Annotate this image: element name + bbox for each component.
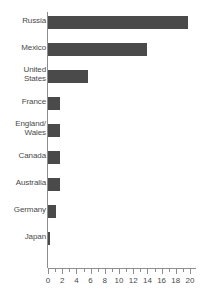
bar-germany xyxy=(48,205,56,218)
x-axis-tick-10 xyxy=(119,269,120,274)
bar-united-states xyxy=(48,70,88,83)
category-label-canada: Canada xyxy=(2,151,46,160)
category-label-england-wales: England/ Wales xyxy=(2,119,46,137)
x-axis-tick-1 xyxy=(55,269,56,272)
x-axis-tick-14 xyxy=(147,269,148,274)
bar-england-wales xyxy=(48,124,60,137)
x-axis-tick-label-20: 20 xyxy=(182,276,198,285)
category-label-germany: Germany xyxy=(2,205,46,214)
x-axis-tick-20 xyxy=(190,269,191,274)
x-axis-tick-12 xyxy=(133,269,134,274)
bar-japan xyxy=(48,232,50,245)
bar-canada xyxy=(48,151,60,164)
category-label-japan: Japan xyxy=(2,232,46,241)
bar-france xyxy=(48,97,60,110)
bar-mexico xyxy=(48,43,147,56)
x-axis-tick-5 xyxy=(84,269,85,272)
x-axis-tick-16 xyxy=(162,269,163,274)
x-axis-tick-9 xyxy=(112,269,113,272)
x-axis-tick-11 xyxy=(126,269,127,272)
x-axis-tick-7 xyxy=(98,269,99,272)
x-axis-tick-17 xyxy=(169,269,170,272)
x-axis-tick-18 xyxy=(176,269,177,274)
bar-russia xyxy=(48,16,188,29)
y-axis-line xyxy=(47,12,48,268)
category-label-united-states: United States xyxy=(2,65,46,83)
x-axis-tick-8 xyxy=(105,269,106,274)
bar-chart-figure: Russia Mexico United States France Engla… xyxy=(0,0,205,301)
x-axis-tick-6 xyxy=(91,269,92,274)
x-axis-tick-13 xyxy=(140,269,141,272)
x-axis-tick-3 xyxy=(69,269,70,272)
x-axis-tick-0 xyxy=(48,269,49,274)
category-label-mexico: Mexico xyxy=(2,43,46,52)
x-axis-tick-19 xyxy=(183,269,184,272)
category-label-australia: Australia xyxy=(2,178,46,187)
category-label-france: France xyxy=(2,97,46,106)
bar-australia xyxy=(48,178,60,191)
x-axis-tick-15 xyxy=(155,269,156,272)
x-axis-tick-4 xyxy=(76,269,77,274)
x-axis-tick-2 xyxy=(62,269,63,274)
category-label-russia: Russia xyxy=(2,16,46,25)
